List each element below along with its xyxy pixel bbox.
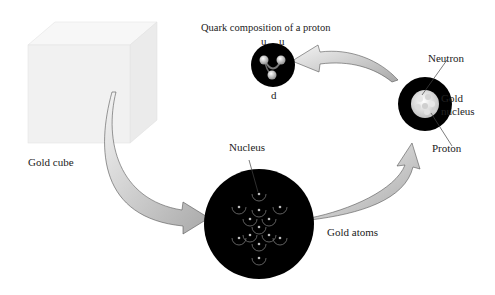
label-gold-nucleus-2: nucleus	[441, 105, 475, 117]
label-quark-u2: u	[279, 35, 285, 47]
quark-u1	[260, 56, 269, 65]
gold-atoms-circle	[204, 160, 314, 279]
label-neutron: Neutron	[428, 52, 464, 64]
quark-d	[268, 71, 277, 80]
gold-cube	[28, 22, 157, 143]
title-quark-composition: Quark composition of a proton	[201, 22, 330, 34]
label-proton: Proton	[432, 142, 461, 154]
proton-circle	[251, 43, 295, 87]
quark-u2	[277, 56, 286, 65]
arrow-atoms-to-nucleus	[310, 143, 420, 220]
label-quark-u1: u	[261, 35, 267, 47]
arrow-nucleus-to-proton	[292, 45, 398, 82]
label-quark-d: d	[271, 89, 277, 101]
label-nucleus: Nucleus	[229, 141, 265, 153]
label-gold-cube: Gold cube	[28, 156, 74, 168]
label-gold-atoms: Gold atoms	[327, 226, 378, 238]
label-gold-nucleus-1: Gold	[441, 92, 463, 104]
